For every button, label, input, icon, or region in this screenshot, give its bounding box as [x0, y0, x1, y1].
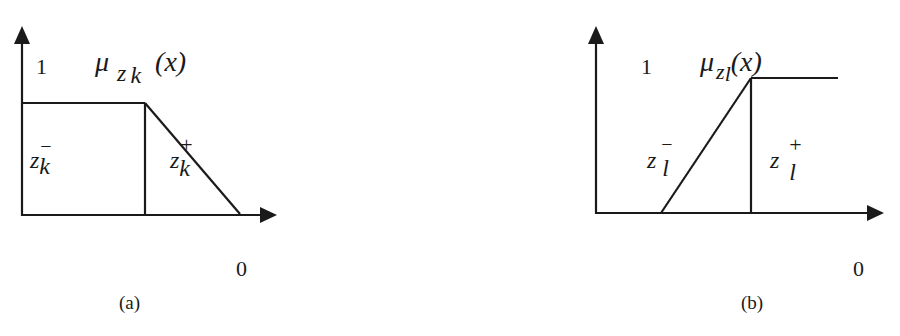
panel-a-slope — [145, 103, 240, 214]
panel-b-caption: (b) — [741, 293, 763, 312]
panel-b-y-tick: 1 — [641, 56, 652, 78]
panel-a-region-left: zk− — [30, 148, 50, 172]
panel-a-caption: (a) — [119, 293, 140, 312]
panel-b-arg: (x) — [731, 46, 762, 77]
panel-a-function-label: μzk(x) — [95, 48, 186, 76]
panel-b-sub-l: l — [725, 61, 731, 86]
panel-b-sub-z: z — [716, 59, 725, 84]
panel-b-x-tick: 0 — [853, 258, 864, 280]
panel-b-slope — [661, 78, 751, 213]
panel-a-arg: (x) — [155, 46, 186, 77]
mu-symbol: μ — [700, 46, 714, 77]
panel-b-function-label: μzl(x) — [700, 48, 762, 76]
panel-b-region-right: zl+ — [770, 148, 796, 172]
panel-a-y-tick: 1 — [36, 56, 47, 78]
panel-a-sub-z: z — [117, 60, 126, 86]
panel-b-x-axis-arrowhead-icon — [867, 205, 884, 221]
panel-a-x-axis-arrowhead-icon — [260, 207, 277, 223]
panel-a-x-tick: 0 — [236, 258, 247, 280]
mu-symbol: μ — [95, 46, 109, 77]
panel-a-region-right: zk+ — [170, 148, 190, 172]
panel-b-region-left: zl− — [647, 148, 669, 172]
panel-a-sub-k: k — [130, 62, 141, 88]
panel-b-y-axis-arrowhead-icon — [588, 26, 604, 44]
panel-a-y-axis-arrowhead-icon — [14, 26, 30, 44]
